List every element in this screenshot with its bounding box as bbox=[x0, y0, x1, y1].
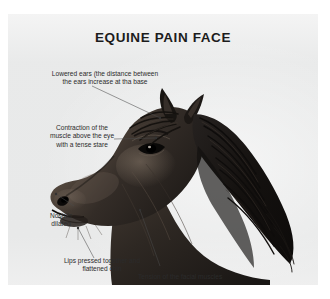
annotation-nostrils-dilated: Nostrils dilated bbox=[38, 212, 84, 229]
annotation-lips-chin: Lips pressed together and flattened chin bbox=[44, 257, 160, 274]
annotation-eye-muscle: Contraction of the muscle above the eye … bbox=[30, 124, 134, 149]
horse-mane bbox=[192, 114, 294, 272]
illustration-plate: EQUINE PAIN FACE bbox=[8, 14, 318, 285]
annotation-lowered-ears: Lowered ears (the distance between the e… bbox=[30, 70, 180, 87]
equine-pain-face-figure: EQUINE PAIN FACE bbox=[0, 0, 330, 299]
annotation-facial-muscles: Tension of the facial muscles bbox=[138, 273, 258, 281]
horse-illustration bbox=[8, 14, 318, 285]
